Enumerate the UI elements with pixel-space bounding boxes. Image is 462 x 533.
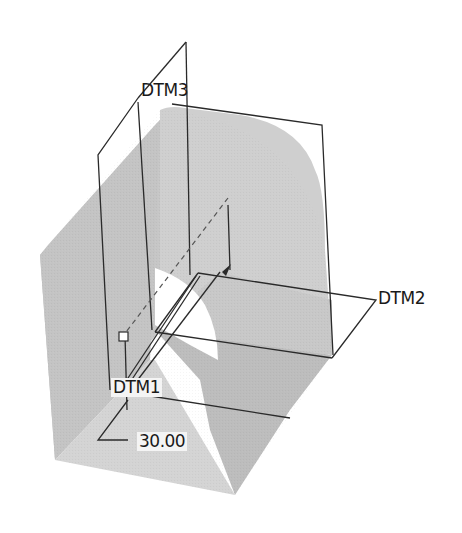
dtm3-label[interactable]: DTM3 (141, 82, 188, 99)
drag-handle-icon[interactable] (119, 332, 128, 341)
dimension-value[interactable]: 30.00 (137, 432, 187, 451)
cad-viewport: DTM3 DTM2 DTM1 30.00 (0, 0, 462, 533)
dtm2-label[interactable]: DTM2 (378, 290, 425, 307)
part-model (0, 0, 462, 533)
dtm1-label[interactable]: DTM1 (111, 378, 162, 397)
